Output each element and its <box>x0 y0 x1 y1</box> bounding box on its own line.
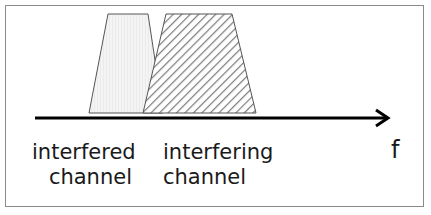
interfered-channel-label: interfered channel <box>32 140 132 190</box>
frequency-axis-label: f <box>391 138 399 163</box>
interfering-channel-shape <box>143 14 256 113</box>
interfered-label-line1: interfered <box>32 140 132 165</box>
interfered-label-line2: channel <box>32 165 132 190</box>
interfering-label-line1: interfering <box>163 140 273 165</box>
interfering-channel-label: interfering channel <box>163 140 273 190</box>
interfering-label-line2: channel <box>163 165 273 190</box>
